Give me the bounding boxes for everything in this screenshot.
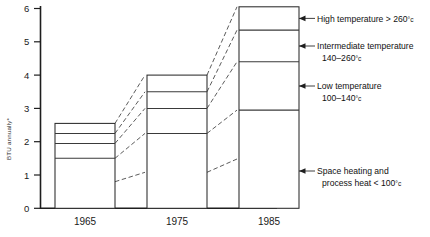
connector-b3-65-75 [115, 92, 145, 134]
callout-intermediate-temperature-line1: Intermediate temperature [317, 41, 414, 51]
bar-1965[interactable] [55, 123, 115, 208]
x-tick-1975: 1975 [166, 216, 189, 227]
svg-text:process heat < 100°c: process heat < 100°c [322, 178, 402, 188]
y-tick-4: 4 [24, 70, 29, 81]
y-axis-ticks [34, 9, 41, 209]
bar-1985[interactable] [239, 7, 299, 209]
arrow-low-temperature-head [299, 83, 306, 89]
callout-low-temperature-degree: °c [355, 95, 362, 102]
callout-space-heating: Space heating and process heat < 100°c [317, 166, 402, 188]
connector-b2-75-85 [207, 62, 237, 109]
connector-b3-75-85 [207, 30, 237, 92]
svg-text:140–260°c: 140–260°c [322, 53, 362, 63]
y-tick-0: 0 [24, 203, 29, 214]
callout-low-temperature-line1: Low temperature [317, 81, 382, 91]
callout-arrows [299, 16, 315, 174]
y-axis-tick-labels: 6 5 4 3 2 1 0 [24, 3, 29, 214]
callout-space-heating-degree: °c [395, 180, 402, 187]
callout-low-temperature-line2: 100–140 [322, 93, 356, 103]
y-axis-title: BTU annually* [5, 117, 12, 160]
callout-high-temperature: High temperature > 260°c [317, 14, 414, 24]
y-axis-title-text: BTU annually* [5, 117, 12, 160]
callout-high-temperature-degree: °c [408, 16, 415, 23]
callout-space-heating-line1: Space heating and [317, 166, 389, 176]
callout-high-temperature-text: High temperature > 260 [317, 14, 408, 24]
y-tick-1: 1 [24, 170, 29, 181]
bar-1965-body[interactable] [55, 123, 115, 208]
callout-space-heating-line2: process heat < 100 [322, 178, 396, 188]
arrow-high-temperature-head [299, 16, 306, 22]
x-tick-1985: 1985 [258, 216, 281, 227]
bar-1975-body[interactable] [147, 75, 207, 208]
callout-intermediate-temperature-line2: 140–260 [322, 53, 356, 63]
connector-total-65-75 [115, 75, 145, 123]
y-tick-3: 3 [24, 103, 29, 114]
callout-intermediate-temperature-degree: °c [355, 55, 362, 62]
callout-low-temperature: Low temperature 100–140°c [317, 81, 382, 103]
svg-text:High temperature > 260°c: High temperature > 260°c [317, 14, 414, 24]
y-tick-5: 5 [24, 36, 29, 47]
x-tick-1965: 1965 [74, 216, 97, 227]
y-tick-6: 6 [24, 3, 29, 14]
y-tick-2: 2 [24, 136, 29, 147]
connector-base-75-85 [207, 159, 237, 172]
x-axis-tick-labels: 1965 1975 1985 [74, 216, 281, 227]
arrow-space-heating-head [299, 168, 306, 174]
chart-container: BTU annually* 6 5 4 3 2 1 0 [0, 0, 430, 237]
connector-b1-65-75 [115, 133, 145, 158]
callout-intermediate-temperature: Intermediate temperature 140–260°c [317, 41, 414, 63]
bar-1975[interactable] [147, 75, 207, 208]
connector-b2-65-75 [115, 108, 145, 143]
connector-base-65-75 [115, 172, 145, 181]
arrow-intermediate-temperature-head [299, 43, 306, 49]
svg-text:100–140°c: 100–140°c [322, 93, 362, 103]
connector-total-75-85 [207, 7, 237, 75]
connector-b1-75-85 [207, 110, 237, 133]
bar-1985-body[interactable] [239, 7, 299, 209]
